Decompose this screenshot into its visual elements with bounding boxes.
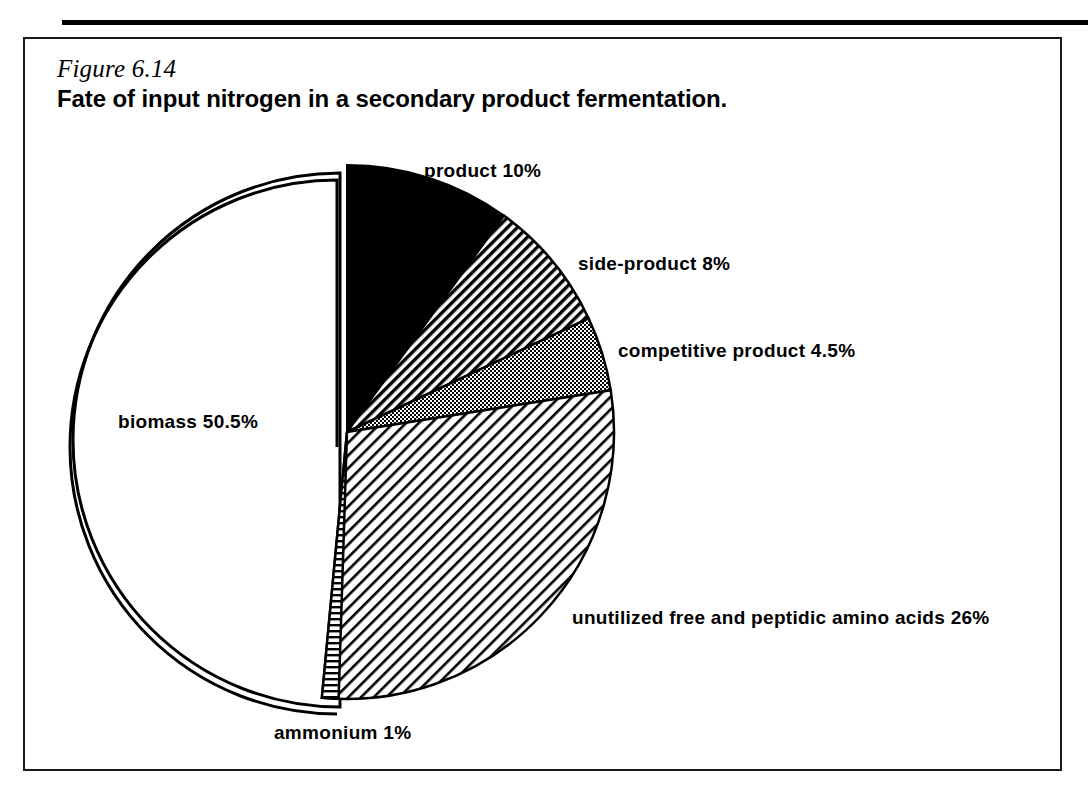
pie-label-biomass: biomass 50.5% <box>118 411 258 433</box>
pie-label-competitive-product: competitive product 4.5% <box>618 340 855 362</box>
pie-label-side-product: side-product 8% <box>578 253 730 275</box>
pie-slice-biomass <box>70 173 340 714</box>
pie-label-unutilized-amino-acids: unutilized free and peptidic amino acids… <box>572 607 990 629</box>
figure-page: Figure 6.14 Fate of input nitrogen in a … <box>0 0 1088 802</box>
pie-chart <box>0 0 1088 802</box>
pie-slice-unutilized-amino-acids <box>322 390 614 699</box>
pie-label-product: product 10% <box>424 160 541 182</box>
pie-label-ammonium: ammonium 1% <box>274 722 411 744</box>
